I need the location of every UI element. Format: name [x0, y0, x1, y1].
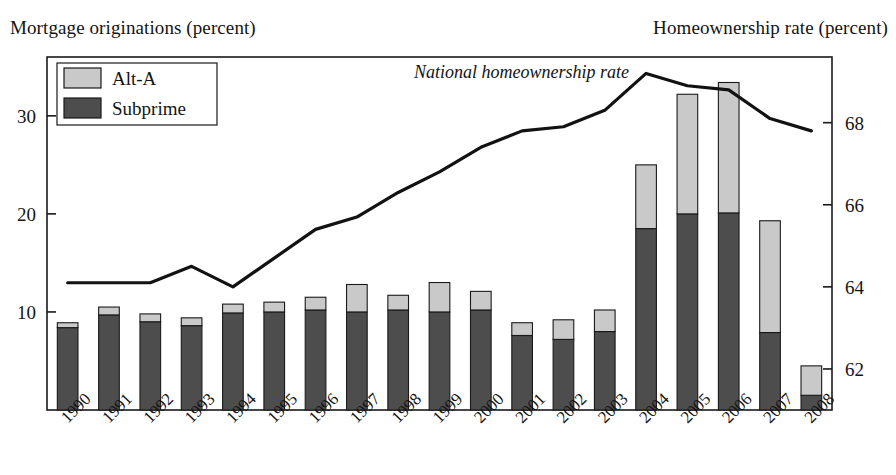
bar-segment-subprime	[636, 229, 657, 410]
bar-segment-alt-a	[57, 323, 78, 328]
right-axis-tick-label: 68	[845, 113, 864, 134]
bar-segment-alt-a	[347, 284, 368, 311]
right-axis-tick-label: 66	[845, 195, 864, 216]
bar-segment-alt-a	[760, 221, 781, 333]
bar-segment-alt-a	[305, 297, 326, 310]
bar-segment-alt-a	[264, 302, 285, 312]
bar-segment-alt-a	[553, 320, 574, 340]
left-axis-tick-label: 20	[17, 204, 36, 225]
bar-segment-subprime	[718, 213, 739, 410]
bar-segment-alt-a	[636, 165, 657, 229]
right-axis-tick-label: 64	[845, 277, 865, 298]
left-axis-tick-label: 30	[17, 106, 36, 127]
right-axis: 62646668	[823, 113, 865, 380]
left-axis: 102030	[17, 106, 56, 323]
bar-segment-alt-a	[512, 323, 533, 336]
bar-segment-alt-a	[718, 82, 739, 212]
bar-segment-alt-a	[223, 304, 244, 313]
bar-segment-alt-a	[181, 318, 202, 326]
right-axis-tick-label: 62	[845, 359, 864, 380]
chart-legend: Alt-ASubprime	[57, 63, 217, 125]
bar-segment-alt-a	[429, 283, 450, 312]
left-axis-tick-label: 10	[17, 302, 36, 323]
bar-segment-alt-a	[388, 295, 409, 310]
chart-plot-area: 102030 62646668 199019911992199319941995…	[0, 0, 896, 475]
legend-swatch-subprime	[64, 98, 101, 118]
bar-segment-alt-a	[140, 314, 161, 322]
bar-segment-alt-a	[594, 310, 615, 332]
bar-segment-alt-a	[801, 366, 822, 395]
bar-segment-subprime	[677, 214, 698, 410]
legend-label-subprime: Subprime	[112, 98, 186, 119]
bar-series-group	[57, 82, 821, 410]
bar-segment-alt-a	[470, 291, 491, 310]
bar-segment-alt-a	[677, 94, 698, 214]
bar-segment-alt-a	[99, 307, 120, 315]
legend-swatch-alt-a	[64, 68, 101, 88]
line-series-annotation: National homeownership rate	[413, 62, 629, 82]
chart-figure: Mortgage originations (percent) Homeowne…	[0, 0, 896, 475]
legend-label-alt-a: Alt-A	[112, 68, 157, 89]
